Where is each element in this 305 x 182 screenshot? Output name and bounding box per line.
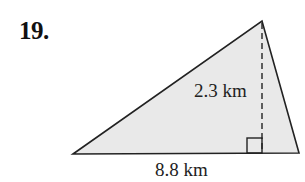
height-label: 2.3 km bbox=[194, 80, 247, 101]
triangle-shape bbox=[73, 21, 299, 154]
base-label: 8.8 km bbox=[155, 159, 208, 180]
triangle-figure: 2.3 km 8.8 km bbox=[0, 0, 305, 182]
